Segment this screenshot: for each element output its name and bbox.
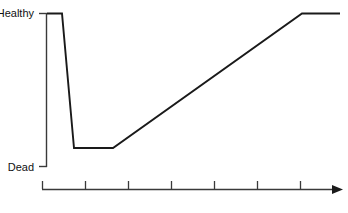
health-over-time-chart: Healthy Dead	[0, 0, 348, 213]
chart-svg: Healthy Dead	[0, 0, 348, 213]
health-curve	[47, 14, 340, 149]
x-axis-arrow-icon	[332, 185, 343, 194]
y-tick-label-dead: Dead	[8, 161, 34, 173]
y-tick-label-healthy: Healthy	[0, 7, 35, 19]
